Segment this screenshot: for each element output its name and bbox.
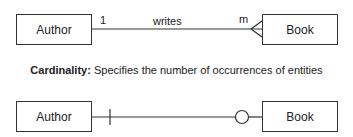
entity-book-2[interactable]: Book xyxy=(262,101,338,132)
entity-book-1[interactable]: Book xyxy=(262,14,338,45)
caption-description: Specifies the number of occurrences of e… xyxy=(94,64,323,76)
relationship-label: writes xyxy=(153,16,182,27)
entity-author-2[interactable]: Author xyxy=(16,101,92,132)
entity-label: Author xyxy=(36,23,71,37)
cardinality-right-label: m xyxy=(239,14,248,25)
cardinality-left-label: 1 xyxy=(100,15,106,26)
caption-term: Cardinality: xyxy=(30,64,91,76)
entity-label: Book xyxy=(286,110,313,124)
entity-label: Book xyxy=(286,23,313,37)
entity-author-1[interactable]: Author xyxy=(16,14,92,45)
zero-circle-icon xyxy=(236,111,249,124)
caption: Cardinality: Specifies the number of occ… xyxy=(0,64,353,76)
entity-label: Author xyxy=(36,110,71,124)
